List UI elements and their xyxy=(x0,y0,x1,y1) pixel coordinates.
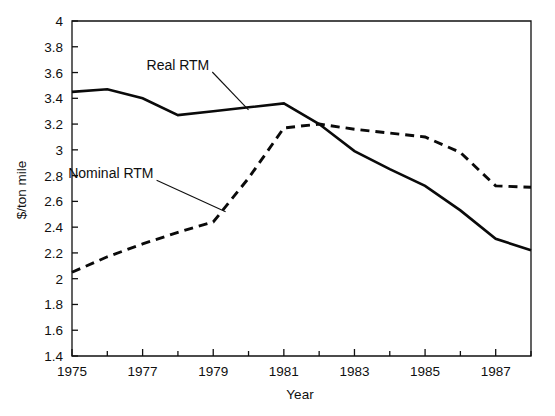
y-tick-label: 2.8 xyxy=(44,169,63,184)
y-axis-tick-marks xyxy=(72,21,78,356)
series-annotations: Real RTMNominal RTM xyxy=(68,57,248,212)
x-tick-label: 1987 xyxy=(481,364,511,379)
chart-page: 1.41.61.822.22.42.62.833.23.43.63.84 197… xyxy=(0,0,555,416)
x-axis-tick-marks xyxy=(72,349,531,356)
y-tick-label: 1.8 xyxy=(44,297,63,312)
y-axis-tick-labels: 1.41.61.822.22.42.62.833.23.43.63.84 xyxy=(44,14,63,364)
plot-frame-border xyxy=(72,21,531,356)
y-tick-label: 3 xyxy=(55,143,63,158)
x-tick-label: 1983 xyxy=(339,364,369,379)
y-tick-label: 2 xyxy=(55,272,63,287)
y-tick-label: 3.2 xyxy=(44,117,63,132)
y-tick-label: 1.6 xyxy=(44,323,63,338)
y-axis-title: $/ton mile xyxy=(14,161,29,220)
y-tick-label: 3.8 xyxy=(44,40,63,55)
x-tick-label: 1985 xyxy=(410,364,440,379)
y-tick-label: 2.2 xyxy=(44,246,63,261)
series-annotation-label: Real RTM xyxy=(147,57,210,73)
y-tick-label: 2.4 xyxy=(44,220,63,235)
y-tick-label: 3.4 xyxy=(44,91,63,106)
series-annotation-label: Nominal RTM xyxy=(68,165,153,181)
x-tick-label: 1975 xyxy=(57,364,87,379)
line-chart: 1.41.61.822.22.42.62.833.23.43.63.84 197… xyxy=(0,0,555,416)
y-tick-label: 4 xyxy=(55,14,63,29)
x-tick-label: 1977 xyxy=(128,364,158,379)
series-line-nominal-rtm xyxy=(72,124,531,272)
y-tick-label: 3.6 xyxy=(44,66,63,81)
annotation-leader-line xyxy=(212,72,248,110)
x-tick-label: 1981 xyxy=(269,364,299,379)
x-tick-label: 1979 xyxy=(198,364,228,379)
annotation-leader-line xyxy=(157,180,226,212)
y-tick-label: 1.4 xyxy=(44,349,63,364)
x-axis-title: Year xyxy=(286,387,314,402)
x-axis-tick-labels: 1975197719791981198319851987 xyxy=(57,364,511,379)
y-tick-label: 2.6 xyxy=(44,194,63,209)
